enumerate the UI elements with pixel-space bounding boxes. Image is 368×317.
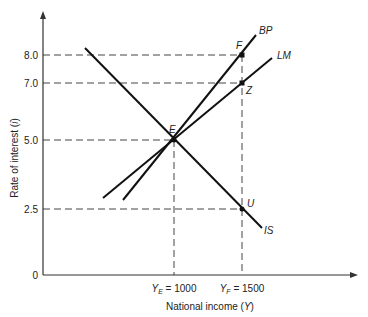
x-axis-title-end: ) [251,301,254,312]
axes [43,17,352,275]
y-tick-0: 0 [32,270,38,281]
y-axis-arrow-icon [40,11,46,19]
label-z: Z [245,85,253,96]
label-bp: BP [259,25,273,36]
x-tick-ye-val: = 1000 [163,283,197,294]
point-f [240,53,245,58]
y-tick-8: 8.0 [24,50,38,61]
x-axis-arrow-icon [350,272,358,278]
x-tick-ye: YE = 1000 [152,283,197,295]
point-u [240,207,245,212]
bp-curve [123,35,256,200]
y-tick-7: 7.0 [24,78,38,89]
is-lm-bp-chart: 8.0 7.0 5.0 2.5 0 Rate of interest (i) Y… [0,0,368,317]
x-axis-title-text: National income ( [166,301,244,312]
curves [85,35,272,228]
y-axis-title-end: ) [9,118,20,121]
y-tick-25: 2.5 [24,204,38,215]
point-z [240,81,245,86]
y-tick-5: 5.0 [24,135,38,146]
x-axis-title: National income (Y) [166,301,254,312]
x-tick-yf-val: = 1500 [231,283,265,294]
point-e [172,138,177,143]
label-e: E [169,124,176,135]
label-is: IS [264,225,274,236]
lm-curve [103,58,272,198]
y-axis-title: Rate of interest (i) [9,118,20,198]
label-lm: LM [277,50,292,61]
y-axis-title-text: Rate of interest ( [9,123,20,198]
label-u: U [247,198,255,209]
x-tick-yf: YF = 1500 [220,283,265,295]
label-f: F [236,40,243,51]
